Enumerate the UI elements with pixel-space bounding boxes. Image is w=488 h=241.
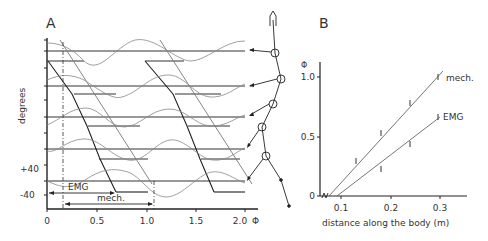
- panel-b-x-tick-0.1: 0.1: [334, 203, 348, 213]
- panel-b-y-tick-0.5: 0.5: [301, 132, 315, 142]
- emg-series-label: EMG: [443, 112, 463, 122]
- arrowhead-icons: [247, 48, 254, 181]
- panel-a-emg-label: EMG: [68, 182, 88, 192]
- panel-b: B Φ 1.0 0.5 0 0.1 0.2 0.3 distance along…: [301, 15, 474, 228]
- panel-a-x-tick-0: 0: [44, 216, 50, 226]
- panel-a-x-tick-2.0: 2.0: [233, 216, 248, 226]
- figure: A degrees +40 -40: [0, 0, 488, 241]
- emg-regression-line: [337, 117, 440, 196]
- panel-b-x-label: distance along the body (m): [322, 218, 449, 228]
- panel-b-ticks: [317, 77, 440, 199]
- panel-b-y-label: Φ: [301, 61, 307, 70]
- panel-b-x-tick-0.3: 0.3: [433, 203, 447, 213]
- panel-a-x-tick-1.5: 1.5: [189, 216, 203, 226]
- body-joint-dot: [288, 205, 291, 208]
- panel-a-label: A: [46, 15, 56, 31]
- panel-a: A degrees +40 -40: [17, 15, 259, 226]
- panel-a-baselines: [47, 51, 245, 181]
- panel-a-y-tick-plus40: +40: [20, 164, 39, 174]
- axis-break-icon: [322, 193, 328, 198]
- panel-a-x-unit: Φ: [252, 216, 259, 226]
- panel-a-x-tick-1.0: 1.0: [140, 216, 155, 226]
- body-joint-dot: [280, 179, 283, 182]
- mech-series-label: mech.: [446, 73, 474, 83]
- panel-b-y-tick-1.0: 1.0: [301, 72, 316, 82]
- body-midline: [262, 20, 289, 206]
- panel-a-y-label: degrees: [17, 87, 27, 124]
- panel-b-x-tick-0.2: 0.2: [384, 203, 398, 213]
- panel-b-label: B: [319, 15, 329, 31]
- emg-data-points: [381, 114, 438, 172]
- panel-a-x-tick-0.5: 0.5: [90, 216, 104, 226]
- panel-a-mech-interval: mech.: [65, 193, 153, 206]
- mech-regression-line: [329, 71, 443, 196]
- panel-a-mech-label: mech.: [97, 193, 125, 203]
- panel-a-angle-traces: [47, 40, 245, 197]
- body-diagram: [247, 11, 290, 207]
- panel-b-y-tick-0: 0: [309, 191, 315, 201]
- panel-a-y-tick-minus40: -40: [20, 190, 35, 200]
